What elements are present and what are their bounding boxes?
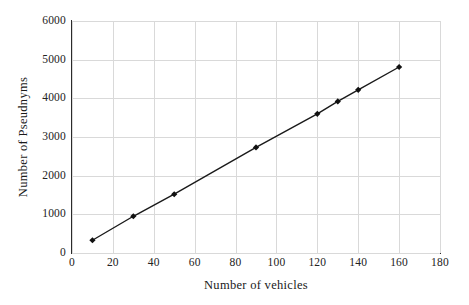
x-axis-tick-label: 120	[297, 256, 337, 269]
data-point-marker	[355, 87, 361, 93]
y-axis-tick-label: 2000	[4, 170, 66, 182]
data-point-marker	[171, 191, 177, 197]
x-axis-tick-label: 100	[256, 256, 296, 269]
gridline-vertical	[440, 21, 441, 253]
x-axis-tick-label: 140	[338, 256, 378, 269]
data-point-marker	[130, 213, 136, 219]
data-point-marker	[314, 111, 320, 117]
data-point-marker	[89, 237, 95, 243]
x-axis-label: Number of vehicles	[72, 278, 440, 293]
y-axis-tick-label: 1000	[4, 208, 66, 220]
series-polyline	[92, 67, 399, 240]
y-axis-tick-label: 3000	[4, 131, 66, 143]
data-point-marker	[253, 144, 259, 150]
x-axis-tick-labels: 020406080100120140160180	[72, 256, 440, 274]
x-axis-tick-label: 0	[52, 256, 92, 269]
x-axis-tick-label: 180	[420, 256, 460, 269]
chart-figure: Number of Pseudnyms 01000200030004000500…	[0, 0, 469, 305]
y-axis-tick-labels: 0100020003000400050006000	[0, 21, 66, 253]
data-point-marker	[335, 98, 341, 104]
y-axis-tick-label: 4000	[4, 92, 66, 104]
gridline-horizontal	[72, 253, 440, 254]
x-axis-tick-label: 20	[93, 256, 133, 269]
x-axis-tick-label: 80	[216, 256, 256, 269]
x-axis-tick-label: 160	[379, 256, 419, 269]
y-axis-tick-label: 6000	[4, 15, 66, 27]
data-point-marker	[396, 64, 402, 70]
plot-area	[72, 21, 440, 253]
x-axis-tick-label: 40	[134, 256, 174, 269]
data-series-line	[72, 21, 440, 253]
y-axis-tick-label: 5000	[4, 54, 66, 66]
x-axis-tick-label: 60	[175, 256, 215, 269]
